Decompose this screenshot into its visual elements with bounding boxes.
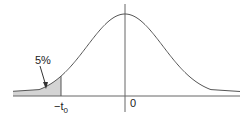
distribution-diagram: 5% −t0 0 bbox=[0, 0, 251, 126]
critical-value-subscript: 0 bbox=[63, 106, 68, 115]
tail-percent-label: 5% bbox=[35, 54, 51, 66]
tail-shaded-area bbox=[13, 76, 61, 96]
critical-value-main: −t bbox=[54, 100, 63, 112]
density-curve bbox=[13, 14, 240, 91]
origin-label: 0 bbox=[130, 97, 136, 109]
critical-value-label: −t0 bbox=[54, 100, 68, 115]
